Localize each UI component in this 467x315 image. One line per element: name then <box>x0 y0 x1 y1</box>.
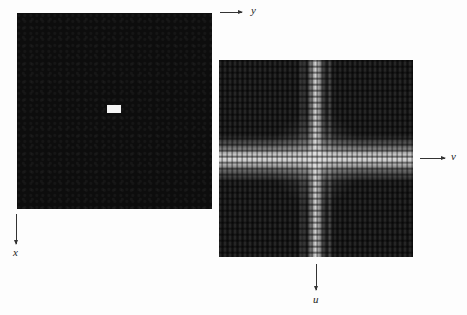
x-axis-label: x <box>13 247 18 258</box>
u-axis-label: u <box>313 294 319 305</box>
u-axis-arrow <box>316 264 317 290</box>
y-axis-label: y <box>251 5 256 16</box>
v-axis-arrow <box>420 158 445 159</box>
spatial-image <box>17 13 212 209</box>
fourier-spectrum-image <box>219 60 413 257</box>
bright-rectangle <box>107 105 121 113</box>
v-axis-label: v <box>451 151 456 162</box>
y-axis-arrow <box>220 12 242 13</box>
x-axis-arrow <box>16 214 17 244</box>
spectrum-horizontal-ripples <box>219 60 413 257</box>
